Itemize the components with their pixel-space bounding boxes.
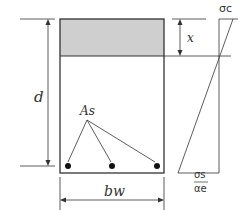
as-leader-1	[68, 120, 87, 162]
label-bw: bw	[104, 184, 125, 198]
compression-zone	[60, 19, 164, 56]
arrow-up-icon	[178, 19, 183, 25]
label-alpha-e: αe	[194, 184, 207, 194]
label-sigma-c: σc	[219, 3, 232, 14]
as-leader-2	[87, 120, 111, 162]
arrow-up-icon	[46, 19, 51, 25]
label-as: As	[80, 105, 95, 117]
rebar-1	[65, 163, 71, 169]
label-x: x	[187, 32, 194, 44]
label-d: d	[34, 90, 44, 105]
rebar-2	[109, 163, 115, 169]
as-leader-3	[87, 120, 155, 162]
arrow-down-icon	[178, 50, 183, 56]
arrow-left-icon	[60, 198, 66, 203]
rebar-3	[154, 163, 160, 169]
arrow-down-icon	[46, 160, 51, 166]
label-sigma-s: σs	[194, 170, 206, 180]
arrow-right-icon	[158, 198, 164, 203]
